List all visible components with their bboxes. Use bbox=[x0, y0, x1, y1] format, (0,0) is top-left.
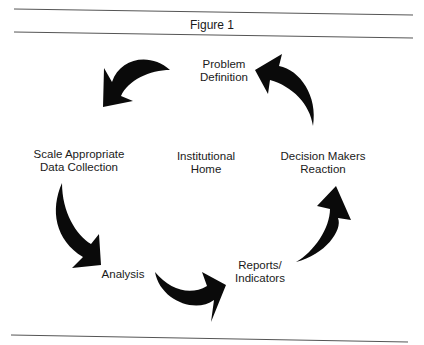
node-label-line1: Decision Makers bbox=[281, 150, 366, 163]
node-label-line2: Indicators bbox=[235, 272, 285, 285]
center-label-line1: Institutional bbox=[177, 150, 235, 163]
center-label-line2: Home bbox=[177, 163, 235, 176]
node-label-line1: Analysis bbox=[102, 268, 145, 281]
node-scale-appropriate-data-collection: Scale Appropriate Data Collection bbox=[34, 148, 125, 174]
node-label-line2: Definition bbox=[200, 71, 248, 84]
arrow-decision-to-problem-icon bbox=[255, 54, 314, 126]
node-label-line2: Data Collection bbox=[34, 161, 125, 174]
node-label-line1: Scale Appropriate bbox=[34, 148, 125, 161]
arrow-analysis-to-reports-icon bbox=[155, 272, 226, 322]
node-decision-makers-reaction: Decision Makers Reaction bbox=[281, 150, 366, 176]
node-label-line2: Reaction bbox=[281, 163, 366, 176]
arrow-collection-to-analysis-icon bbox=[56, 183, 101, 268]
center-institutional-home: Institutional Home bbox=[177, 150, 235, 176]
node-label-line1: Reports/ bbox=[235, 259, 285, 272]
arrow-problem-to-collection-icon bbox=[103, 60, 170, 107]
node-label-line1: Problem bbox=[200, 58, 248, 71]
node-analysis: Analysis bbox=[102, 268, 145, 281]
node-reports-indicators: Reports/ Indicators bbox=[235, 259, 285, 285]
node-problem-definition: Problem Definition bbox=[200, 58, 248, 84]
arrow-reports-to-decision-icon bbox=[296, 186, 351, 262]
